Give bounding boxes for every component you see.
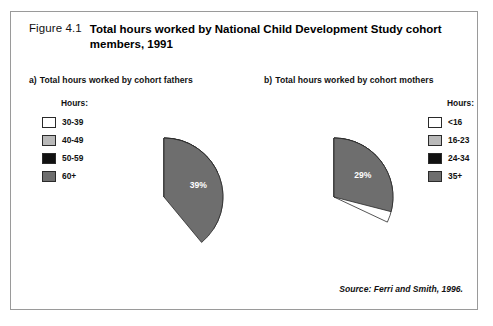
legend-mothers: Hours: <16 16-23 24-34 35+ — [428, 98, 474, 185]
panel-marker-b: b) — [264, 75, 272, 85]
legend-title-fathers: Hours: — [61, 98, 88, 108]
panel-caption-b: b)Total hours worked by cohort mothers — [264, 75, 433, 85]
legend-label-50-59: 50-59 — [62, 153, 83, 163]
legend-item: 60+ — [42, 167, 88, 185]
legend-label-24-34: 24-34 — [448, 153, 469, 163]
pie-slice-label: 39% — [190, 180, 208, 190]
legend-swatch-24-34 — [428, 153, 442, 164]
figure-number: Figure 4.1 — [29, 22, 82, 34]
legend-swatch-60-plus — [42, 171, 56, 182]
pie-slice-60- — [164, 138, 223, 242]
figure-frame: Figure 4.1 Total hours worked by Nationa… — [10, 11, 478, 310]
legend-item: 24-34 — [428, 149, 474, 167]
legend-label-under-16: <16 — [448, 117, 462, 127]
legend-label-16-23: 16-23 — [448, 135, 469, 145]
legend-label-35-plus: 35+ — [448, 171, 462, 181]
legend-item: 35+ — [428, 167, 474, 185]
legend-item: 16-23 — [428, 131, 474, 149]
legend-swatch-under-16 — [428, 117, 442, 128]
figure-header: Figure 4.1 Total hours worked by Nationa… — [29, 22, 465, 51]
legend-swatch-50-59 — [42, 153, 56, 164]
source-note: Source: Ferri and Smith, 1996. — [339, 284, 463, 294]
legend-fathers: Hours: 30-39 40-49 50-59 60+ — [42, 98, 88, 185]
figure-title: Total hours worked by National Child Dev… — [90, 22, 442, 51]
legend-item: 50-59 — [42, 149, 88, 167]
legend-label-30-39: 30-39 — [62, 117, 83, 127]
legend-swatch-16-23 — [428, 135, 442, 146]
legend-swatch-35-plus — [428, 171, 442, 182]
legend-label-60-plus: 60+ — [62, 171, 76, 181]
pie-chart-mothers: 32%23%16%29% — [274, 137, 394, 257]
legend-swatch-30-39 — [42, 117, 56, 128]
pie-chart-fathers-svg: 34%9%18%39% — [104, 137, 224, 257]
legend-item: 30-39 — [42, 113, 88, 131]
legend-item: <16 — [428, 113, 474, 131]
legend-item: 40-49 — [42, 131, 88, 149]
legend-label-40-49: 40-49 — [62, 135, 83, 145]
pie-slice-label: 29% — [354, 170, 372, 180]
panel-marker-a: a) — [29, 75, 37, 85]
legend-swatch-40-49 — [42, 135, 56, 146]
pie-chart-fathers: 34%9%18%39% — [104, 137, 224, 257]
legend-title-mothers: Hours: — [447, 98, 474, 108]
pie-chart-mothers-svg: 32%23%16%29% — [274, 137, 394, 257]
panel-caption-a: a)Total hours worked by cohort fathers — [29, 75, 193, 85]
panel-caption-text-b: Total hours worked by cohort mothers — [275, 75, 433, 85]
panel-caption-text-a: Total hours worked by cohort fathers — [40, 75, 193, 85]
